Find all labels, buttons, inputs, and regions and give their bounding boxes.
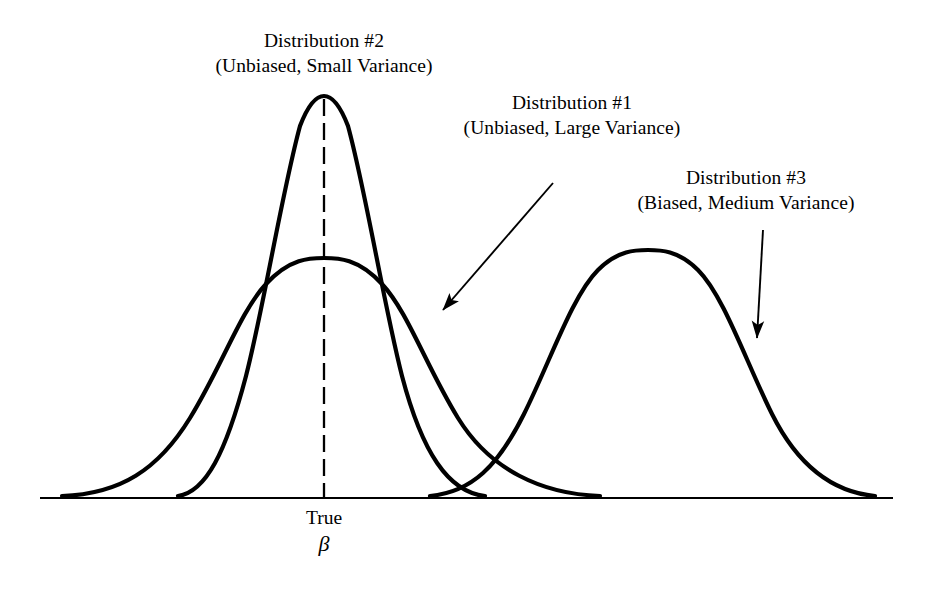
label-distribution-1-subtitle: (Unbiased, Large Variance) (430, 115, 714, 140)
arrow-to-distribution-1 (443, 183, 553, 310)
curve-distribution-2 (178, 96, 485, 496)
label-distribution-3-subtitle: (Biased, Medium Variance) (590, 190, 902, 215)
curve-distribution-1 (62, 258, 600, 496)
label-distribution-2-title: Distribution #2 (182, 28, 466, 53)
beta-symbol: β (254, 531, 394, 558)
distribution-figure: Distribution #2 (Unbiased, Small Varianc… (0, 0, 931, 599)
label-distribution-3-title: Distribution #3 (590, 165, 902, 190)
label-distribution-2-subtitle: (Unbiased, Small Variance) (182, 53, 466, 78)
label-distribution-2: Distribution #2 (Unbiased, Small Varianc… (182, 28, 466, 79)
curve-distribution-3 (430, 250, 875, 496)
true-label: True (254, 506, 394, 530)
true-beta-annotation: True β (254, 506, 394, 558)
arrow-to-distribution-3 (757, 230, 763, 338)
label-distribution-3: Distribution #3 (Biased, Medium Variance… (590, 165, 902, 216)
label-distribution-1-title: Distribution #1 (430, 90, 714, 115)
label-distribution-1: Distribution #1 (Unbiased, Large Varianc… (430, 90, 714, 141)
